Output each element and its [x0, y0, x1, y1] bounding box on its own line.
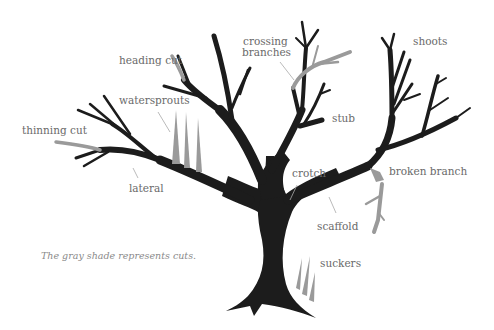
label-suckers: suckers [320, 257, 361, 269]
label-scaffold: scaffold [317, 220, 359, 232]
watersprout-3 [196, 118, 202, 172]
leader-lateral [133, 168, 138, 178]
label-thinning-cut: thinning cut [22, 124, 88, 136]
sucker-3 [309, 272, 315, 302]
label-shoots: shoots [413, 35, 447, 47]
sucker-1 [296, 258, 302, 290]
caption: The gray shade represents cuts. [41, 250, 196, 261]
leader-crossing [280, 62, 294, 80]
label-crossing-branches-2: branches [242, 46, 291, 58]
label-heading-cut: heading cut [119, 54, 183, 66]
left-limb-tip [76, 150, 100, 158]
right-lower-tip [456, 108, 470, 118]
right-scaffold-up [368, 118, 392, 166]
broken-branch-piece [374, 184, 382, 232]
label-lateral: lateral [129, 182, 164, 194]
stub-branch [300, 120, 322, 126]
leader-scaffold [329, 197, 336, 213]
label-broken-branch: broken branch [389, 165, 467, 177]
label-watersprouts: watersprouts [119, 94, 190, 106]
right-top-twig-a [382, 38, 390, 50]
broken-branch-stub [370, 168, 384, 182]
center-right-crossing-base [293, 88, 300, 118]
center-left-branch [220, 110, 262, 180]
center-left-tall-side2 [240, 70, 248, 94]
watersprout-1 [172, 110, 180, 164]
center-right-upper [302, 48, 306, 110]
crossing-branch-cut [293, 52, 350, 88]
sucker-2 [302, 256, 310, 296]
pruning-diagram: heading cut crossing branches shoots wat… [0, 0, 494, 330]
label-stub: stub [332, 112, 355, 124]
thinning-cut-mark [56, 142, 100, 150]
watersprout-2 [184, 112, 190, 168]
center-right-top-twig-b [306, 30, 318, 48]
leader-watersprouts [158, 112, 170, 132]
right-top-twig-b [390, 34, 394, 50]
label-crotch: crotch [292, 167, 326, 179]
